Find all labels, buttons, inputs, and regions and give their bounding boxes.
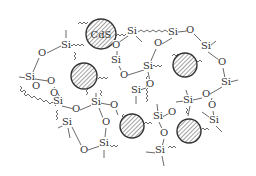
silicon-atom: Si [183, 94, 193, 105]
silicon-atom: Si [111, 54, 121, 65]
oxygen-atom: O [32, 80, 40, 91]
oxygen-atom: O [38, 47, 46, 58]
oxygen-atom: O [186, 24, 194, 35]
oxygen-atom: O [50, 87, 58, 98]
silicon-atom: Si [143, 60, 153, 71]
silicon-atom: Si [99, 137, 109, 148]
oxygen-atom: O [168, 106, 176, 117]
silicon-atom: Si [153, 110, 163, 121]
silicon-atom: Si [221, 76, 231, 87]
oxygen-atom: O [160, 127, 168, 138]
oxygen-atom: O [110, 99, 118, 110]
nanoparticles: CdS [71, 19, 201, 143]
oxygen-atom: O [47, 75, 55, 86]
oxygen-atom: O [208, 99, 216, 110]
oxygen-atom: O [72, 103, 80, 114]
silicon-atom: Si [61, 39, 71, 50]
nanoparticle-2 [71, 63, 97, 89]
oxygen-atom: O [120, 69, 128, 80]
silicon-atom: Si [209, 114, 219, 125]
nanoparticle-5 [177, 119, 201, 143]
silicon-atom: Si [168, 26, 178, 37]
silicon-atom: Si [131, 84, 141, 95]
oxygen-atom: O [80, 144, 88, 155]
oxygen-atom: O [146, 78, 154, 89]
nanoparticle-3 [173, 53, 197, 77]
cds-silica-network-diagram: CdS SiOSiOSiOSiOOSiOSiSiOSiOSiOSiSiOOSiO… [0, 0, 256, 176]
silicon-atom: Si [127, 25, 137, 36]
oxygen-atom: O [112, 39, 120, 50]
silicon-atom: Si [155, 144, 165, 155]
oxygen-atom: O [202, 88, 210, 99]
silicon-atom: Si [62, 116, 72, 127]
silicon-atom: Si [91, 96, 101, 107]
cds-label: CdS [91, 29, 112, 40]
nanoparticle-4 [120, 114, 144, 138]
oxygen-atom: O [218, 56, 226, 67]
oxygen-atom: O [102, 116, 110, 127]
oxygen-atom: O [154, 37, 162, 48]
silicon-atom: Si [201, 40, 211, 51]
